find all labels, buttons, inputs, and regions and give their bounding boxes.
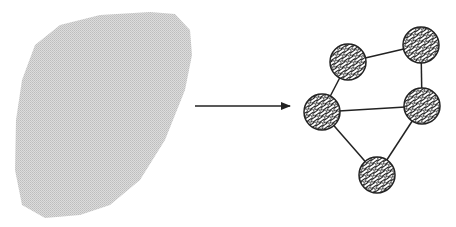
graph-node xyxy=(404,88,440,124)
graph-node xyxy=(304,94,340,130)
diagram-canvas xyxy=(0,0,456,227)
graph-nodes xyxy=(304,27,440,193)
graph-node xyxy=(403,27,439,63)
graph-node xyxy=(330,44,366,80)
input-region-blob xyxy=(15,12,192,218)
graph-node xyxy=(359,157,395,193)
